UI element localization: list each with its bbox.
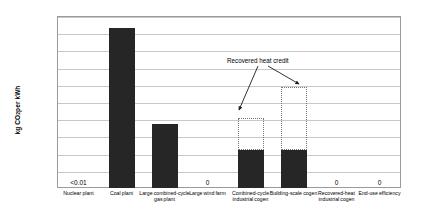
bar-value-label: 0 bbox=[378, 179, 382, 186]
y-axis-title: kg CO2 per kWh bbox=[10, 0, 24, 220]
bar-group bbox=[272, 16, 315, 188]
y-axis-title-post: per kWh bbox=[14, 86, 21, 112]
y-axis-title-pre: kg CO bbox=[14, 115, 21, 135]
bar-value-label: 0 bbox=[206, 179, 210, 186]
x-axis-tick-labels: Nuclear plantCoal plantLarge combined-cy… bbox=[57, 190, 401, 220]
bar-value-label: 0 bbox=[335, 179, 339, 186]
bar-group bbox=[143, 16, 186, 188]
bar-value bbox=[238, 150, 264, 188]
bar-value bbox=[281, 150, 307, 188]
bar-recovered-heat-credit bbox=[281, 87, 307, 151]
bar-group: 0 bbox=[186, 16, 229, 188]
bars-layer: <0.01000 bbox=[57, 16, 401, 188]
bar-recovered-heat-credit bbox=[238, 118, 264, 151]
annotation-recovered-heat-credit: Recovered heat credit bbox=[227, 57, 289, 64]
chart-container: kg CO2 per kWh 00.10.20.30.40.50.60.70.8… bbox=[0, 0, 423, 220]
bar-value bbox=[109, 28, 135, 188]
y-axis-title-subscript: 2 bbox=[15, 112, 21, 115]
bar-group: <0.01 bbox=[57, 16, 100, 188]
bar-group bbox=[100, 16, 143, 188]
bar-group: 0 bbox=[315, 16, 358, 188]
bar-value bbox=[152, 124, 178, 188]
x-axis-tick-label: End-use efficiency bbox=[354, 190, 405, 196]
bar-group: 0 bbox=[358, 16, 401, 188]
bar-group bbox=[229, 16, 272, 188]
bar-value-label: <0.01 bbox=[70, 179, 86, 186]
